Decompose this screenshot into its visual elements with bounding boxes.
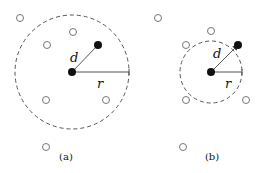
panel-caption: (a): [59, 151, 73, 162]
radius-label: r: [97, 76, 104, 91]
panel-b: dr(b): [155, 15, 250, 163]
open-node: [243, 97, 250, 104]
distance-label: d: [70, 50, 78, 65]
center-node: [68, 68, 76, 76]
open-node: [70, 29, 77, 36]
open-node: [44, 42, 51, 49]
open-node: [17, 15, 24, 22]
open-node: [43, 144, 50, 151]
panel-caption: (b): [205, 151, 219, 162]
target-node: [234, 41, 242, 49]
open-node: [208, 28, 215, 35]
open-node: [183, 97, 190, 104]
open-node: [180, 144, 187, 151]
open-node: [43, 97, 50, 104]
open-node: [103, 97, 110, 104]
radius-label: r: [225, 76, 232, 91]
center-node: [207, 68, 215, 76]
target-node: [94, 41, 102, 49]
distance-label: d: [213, 46, 221, 61]
open-node: [183, 42, 190, 49]
open-node: [155, 15, 162, 22]
panel-a: dr(a): [15, 15, 129, 163]
diagram-canvas: dr(a) dr(b): [0, 0, 261, 173]
